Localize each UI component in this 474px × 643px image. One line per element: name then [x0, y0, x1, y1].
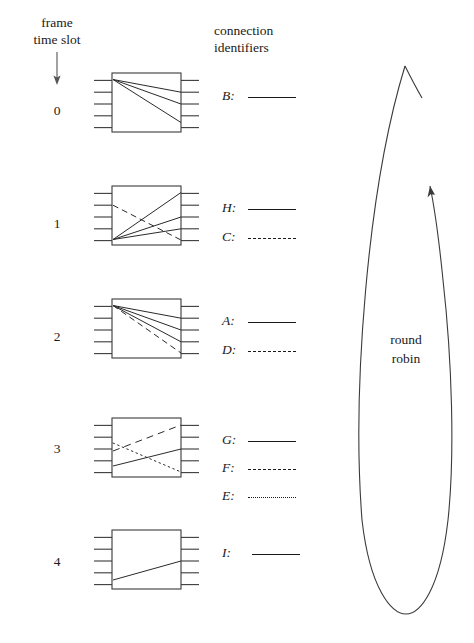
- connection-A-3: [113, 306, 181, 342]
- output-port-stubs-slot-0: [181, 80, 199, 127]
- legend-line-I: [252, 554, 300, 555]
- connection-lines-slot-2: [113, 306, 181, 354]
- frame-time-slot-label: frame time slot: [14, 14, 100, 48]
- slot-number-3: 3: [14, 441, 100, 457]
- legend-id-I: I:: [222, 545, 231, 561]
- legend-id-B: B:: [222, 88, 235, 104]
- legend-entry-A: A:: [222, 315, 342, 331]
- connection-H-1: [113, 193, 181, 240]
- switch-box-slot-4: [94, 530, 199, 589]
- switch-box-slot-3: [94, 418, 199, 477]
- output-port-stubs-slot-4: [181, 537, 199, 584]
- down-arrow-icon: [53, 52, 60, 85]
- connection-A-1: [113, 306, 181, 319]
- legend-id-E: E:: [222, 488, 235, 504]
- legend-entry-H: H:: [222, 202, 342, 218]
- connection-label-line-1: connection: [214, 22, 344, 39]
- legend-entry-G: G:: [222, 434, 342, 450]
- legend-entry-E: E:: [222, 490, 342, 506]
- legend-id-D: D:: [222, 342, 236, 358]
- round-robin-line-1: round: [360, 330, 452, 349]
- legend-id-F: F:: [222, 460, 235, 476]
- tdm-switching-figure: frame time slot connection identifiers 0…: [0, 0, 474, 643]
- legend-entry-F: F:: [222, 462, 342, 478]
- switch-box-slot-2: [94, 299, 199, 358]
- legend-line-G: [248, 441, 296, 442]
- legend-entry-D: D:: [222, 344, 342, 360]
- legend-line-H: [248, 209, 296, 210]
- connection-C-1: [113, 205, 181, 240]
- output-port-stubs-slot-3: [181, 425, 199, 472]
- legend-entry-I: I:: [222, 547, 342, 563]
- legend-id-A: A:: [222, 313, 235, 329]
- legend-line-F: [248, 469, 296, 470]
- legend-line-E: [248, 497, 296, 498]
- legend-id-C: C:: [222, 229, 236, 245]
- connection-A-2: [113, 306, 181, 331]
- switch-box-slot-1: [94, 186, 199, 245]
- legend-id-G: G:: [222, 432, 236, 448]
- output-port-stubs-slot-2: [181, 306, 199, 353]
- slot-number-2: 2: [14, 329, 100, 345]
- connection-identifiers-label: connection identifiers: [214, 22, 344, 56]
- frame-label-line-1: frame: [14, 14, 100, 31]
- legend-entry-C: C:: [222, 231, 342, 247]
- switch-box-slot-0: [94, 73, 199, 132]
- connection-lines-slot-3: [113, 425, 181, 472]
- legend-line-B: [248, 97, 296, 98]
- legend-line-A: [248, 322, 296, 323]
- legend-id-H: H:: [222, 200, 236, 216]
- legend-entry-B: B:: [222, 90, 342, 106]
- frame-label-line-2: time slot: [14, 31, 100, 48]
- connection-lines-slot-4: [113, 561, 181, 580]
- output-port-stubs-slot-1: [181, 193, 199, 240]
- slot-number-1: 1: [14, 216, 100, 232]
- round-robin-caption: round robin: [360, 330, 452, 368]
- connection-D-1: [113, 306, 181, 354]
- slot-number-4: 4: [14, 554, 100, 570]
- connection-B-2: [113, 80, 181, 105]
- connection-lines-slot-1: [113, 193, 181, 241]
- connection-H-3: [113, 229, 181, 240]
- connection-label-line-2: identifiers: [214, 39, 344, 56]
- slot-number-0: 0: [14, 103, 100, 119]
- connection-E-1: [113, 443, 181, 472]
- legend-line-C: [248, 238, 296, 239]
- connection-H-2: [113, 217, 181, 240]
- legend-line-D: [248, 351, 296, 352]
- connection-lines-slot-0: [113, 80, 181, 123]
- connection-I-1: [113, 561, 181, 580]
- round-robin-line-2: robin: [360, 349, 452, 368]
